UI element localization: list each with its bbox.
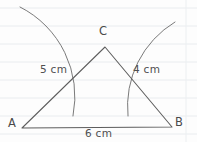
vertex-label-b: B (175, 117, 183, 129)
figure-canvas (0, 0, 197, 142)
vertex-label-a: A (8, 118, 16, 130)
vertex-label-c: C (99, 26, 107, 38)
side-length-label-ac: 5 cm (40, 64, 67, 75)
geometry-figure: A B C 5 cm 4 cm 6 cm (0, 0, 197, 142)
side-length-label-bc: 4 cm (133, 64, 160, 75)
side-length-label-ab: 6 cm (85, 128, 112, 139)
